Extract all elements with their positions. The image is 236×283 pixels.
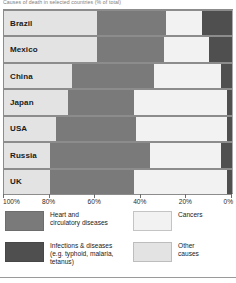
bar-segment-heart bbox=[72, 64, 154, 88]
bar-segment-infect bbox=[227, 170, 232, 194]
bar-segment-other bbox=[4, 170, 50, 194]
bar-track bbox=[4, 142, 232, 168]
gridline-0 bbox=[232, 10, 233, 193]
bar-segment-other bbox=[4, 64, 72, 88]
legend-item-heart[interactable]: Heart and circulatory diseases bbox=[5, 211, 108, 231]
bar-segment-heart bbox=[50, 143, 150, 167]
legend-item-other[interactable]: Other causes bbox=[133, 242, 199, 262]
bar-segment-heart bbox=[97, 37, 163, 61]
legend-label-cancer: Cancers bbox=[178, 211, 203, 219]
bar-segment-heart bbox=[97, 11, 165, 35]
bar-segment-infect bbox=[227, 90, 232, 114]
axis-tick-label: 0% bbox=[223, 198, 233, 205]
chart-page: Causes of death in selected countries (%… bbox=[0, 0, 236, 283]
chart-legend: Heart and circulatory diseasesCancersInf… bbox=[3, 211, 233, 273]
bar-segment-cancer bbox=[164, 37, 210, 61]
bar-segment-heart bbox=[56, 117, 136, 141]
bar-row[interactable]: Japan bbox=[4, 89, 232, 115]
bar-row[interactable]: UK bbox=[4, 169, 232, 195]
bar-segment-cancer bbox=[166, 11, 202, 35]
axis-tick-label: 60% bbox=[88, 198, 101, 205]
axis-tick-label: 40% bbox=[133, 198, 146, 205]
bar-segment-infect bbox=[209, 37, 232, 61]
bar-track bbox=[4, 116, 232, 142]
bar-segment-other bbox=[4, 37, 97, 61]
bar-track bbox=[4, 63, 232, 89]
legend-label-heart: Heart and circulatory diseases bbox=[50, 211, 108, 227]
bar-segment-cancer bbox=[150, 143, 221, 167]
bar-segment-infect bbox=[221, 143, 232, 167]
legend-swatch-other bbox=[133, 242, 172, 262]
axis-tick-label: 100% bbox=[3, 198, 20, 205]
x-axis: 100%80%60%40%20%0% bbox=[3, 194, 233, 208]
plot-area: BrazilMexicoChinaJapanUSARussiaUK bbox=[3, 9, 233, 194]
bar-rows: BrazilMexicoChinaJapanUSARussiaUK bbox=[4, 10, 232, 193]
bar-segment-cancer bbox=[136, 117, 227, 141]
bar-segment-infect bbox=[227, 117, 232, 141]
footer-divider bbox=[0, 277, 236, 278]
bar-row[interactable]: Russia bbox=[4, 142, 232, 168]
bar-segment-other bbox=[4, 143, 50, 167]
bar-track bbox=[4, 169, 232, 195]
bar-row[interactable]: Brazil bbox=[4, 10, 232, 36]
bar-segment-other bbox=[4, 90, 68, 114]
bar-track bbox=[4, 36, 232, 62]
bar-track bbox=[4, 10, 232, 36]
axis-tick-label: 20% bbox=[179, 198, 192, 205]
bar-segment-other bbox=[4, 11, 97, 35]
bar-row[interactable]: Mexico bbox=[4, 36, 232, 62]
bar-row[interactable]: China bbox=[4, 63, 232, 89]
legend-swatch-cancer bbox=[133, 211, 172, 231]
bar-row[interactable]: USA bbox=[4, 116, 232, 142]
legend-label-infect: Infections & diseases (e.g. typhoid, mal… bbox=[50, 242, 113, 266]
bar-segment-cancer bbox=[154, 64, 220, 88]
bar-segment-infect bbox=[202, 11, 232, 35]
bar-segment-infect bbox=[221, 64, 232, 88]
bar-segment-other bbox=[4, 117, 56, 141]
legend-label-other: Other causes bbox=[178, 242, 199, 258]
legend-swatch-heart bbox=[5, 211, 44, 231]
chart-title: Causes of death in selected countries (%… bbox=[3, 0, 233, 6]
bar-segment-cancer bbox=[134, 170, 227, 194]
bar-segment-heart bbox=[68, 90, 134, 114]
bar-segment-cancer bbox=[134, 90, 227, 114]
axis-tick-label: 80% bbox=[42, 198, 55, 205]
legend-item-cancer[interactable]: Cancers bbox=[133, 211, 203, 231]
legend-item-infect[interactable]: Infections & diseases (e.g. typhoid, mal… bbox=[5, 242, 113, 266]
legend-swatch-infect bbox=[5, 242, 44, 262]
bar-segment-heart bbox=[50, 170, 134, 194]
bar-track bbox=[4, 89, 232, 115]
